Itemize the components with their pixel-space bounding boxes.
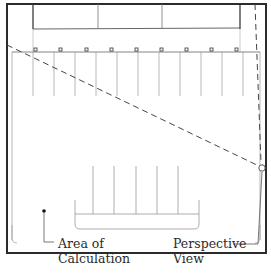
light-post-icon <box>235 48 238 51</box>
perspective-view-label: Perspective View <box>173 236 247 266</box>
light-post-icon <box>34 48 37 51</box>
area-point-icon <box>42 209 46 213</box>
site-plan-diagram <box>0 0 271 273</box>
site-boundary <box>7 4 266 253</box>
light-posts <box>34 48 238 51</box>
top-building <box>33 4 240 52</box>
light-post-icon <box>210 48 213 51</box>
left-curb <box>12 225 17 243</box>
area-leader-line <box>44 213 54 242</box>
area-label-line1: Area of <box>58 236 130 251</box>
perspective-leader-line <box>233 172 262 244</box>
light-post-icon <box>85 48 88 51</box>
viewpoint-icon <box>259 165 265 171</box>
lower-parking-row <box>75 166 199 229</box>
area-label-line2: Calculation <box>58 251 130 266</box>
light-post-icon <box>185 48 188 51</box>
perspective-label-line2: View <box>173 251 247 266</box>
light-post-icon <box>59 48 62 51</box>
area-of-calculation-label: Area of Calculation <box>58 236 130 266</box>
light-post-icon <box>135 48 138 51</box>
light-post-icon <box>160 48 163 51</box>
perspective-label-line1: Perspective <box>173 236 247 251</box>
light-post-icon <box>110 48 113 51</box>
